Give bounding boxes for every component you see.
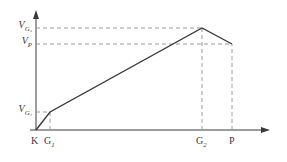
x-tick-label-g1: G1	[44, 136, 55, 149]
y-tick-sub-vp: P	[28, 41, 32, 48]
x-tick-label-g2: G2	[196, 136, 207, 149]
x-tick-label-p: P	[229, 136, 235, 146]
potential-distribution-figure: VG₂ VP VG₁ K G1 G2 P	[0, 0, 287, 162]
x-tick-label-k: K	[31, 136, 38, 146]
x-tick-sub-g1: 1	[51, 141, 54, 148]
potential-curve	[36, 28, 232, 130]
y-tick-label-vg1: VG₁	[6, 104, 32, 117]
y-tick-label-vg2: VG₂	[6, 20, 32, 33]
y-tick-sub-vg2: G₂	[25, 25, 32, 32]
x-axis-group	[30, 127, 270, 133]
x-tick-sub-g2: 2	[203, 141, 206, 148]
y-tick-sub-vg1: G₁	[25, 109, 32, 116]
x-axis-arrowhead	[261, 127, 270, 133]
y-axis-arrowhead	[33, 10, 39, 19]
y-tick-label-vp: VP	[6, 36, 32, 49]
